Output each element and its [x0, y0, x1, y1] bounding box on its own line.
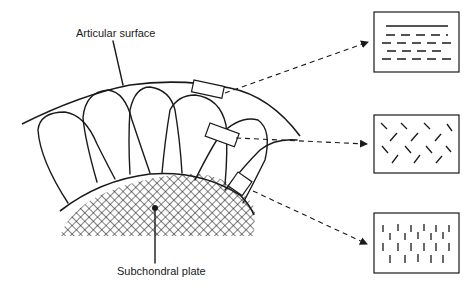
sample-box-middle [205, 123, 239, 147]
articular-surface-leader [113, 41, 123, 85]
subchondral-plate-label: Subchondral plate [117, 265, 206, 277]
arrow-deep [253, 191, 367, 244]
panel-deep-zone [374, 213, 459, 273]
arrow-superficial [225, 42, 368, 93]
arrow-middle [236, 138, 367, 144]
articular-surface-label: Articular surface [76, 27, 155, 39]
panel-middle-zone [374, 115, 459, 173]
panel-superficial-zone [374, 12, 459, 72]
cartilage-collagen-diagram: Articular surface Subchondral plate [0, 0, 474, 289]
